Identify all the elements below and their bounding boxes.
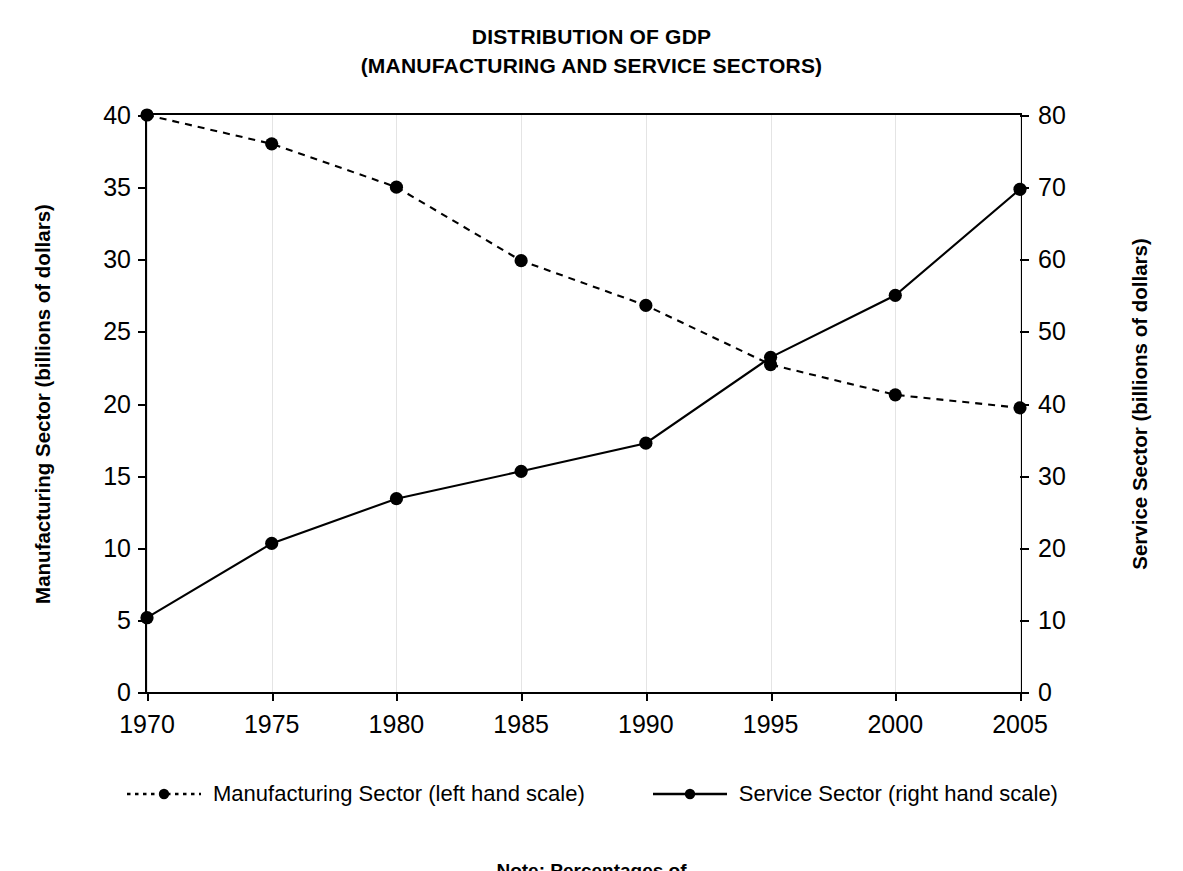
y-axis-right-tick-label: 20: [1038, 536, 1066, 561]
data-point: [265, 137, 278, 150]
x-axis-tick-label: 1985: [493, 712, 549, 737]
y-axis-left-tick-label: 10: [103, 536, 131, 561]
series-layer: [147, 115, 1020, 692]
y-axis-right-tick-label: 60: [1038, 247, 1066, 272]
legend-item-manufacturing[interactable]: Manufacturing Sector (left hand scale): [125, 781, 585, 807]
x-axis-tick-label: 1975: [244, 712, 300, 737]
x-axis-tick: [1020, 692, 1022, 701]
y-axis-left-tick-label: 35: [103, 175, 131, 200]
y-axis-left-tick-label: 25: [103, 319, 131, 344]
data-point: [515, 254, 528, 267]
y-axis-right-tick-label: 0: [1038, 680, 1052, 705]
legend-item-service[interactable]: Service Sector (right hand scale): [651, 781, 1058, 807]
y-axis-right-tick-label: 70: [1038, 175, 1066, 200]
data-point: [764, 351, 777, 364]
data-point: [1013, 183, 1026, 196]
series-line: [147, 189, 1020, 617]
y-axis-left-tick: [138, 187, 147, 189]
y-axis-left-tick-label: 20: [103, 392, 131, 417]
data-point: [1013, 401, 1026, 414]
y-axis-right-tick: [1020, 476, 1029, 478]
y-axis-left-tick: [138, 692, 147, 694]
y-axis-left-tick: [138, 404, 147, 406]
y-axis-right-tick: [1020, 620, 1029, 622]
data-point: [390, 181, 403, 194]
legend-label-service: Service Sector (right hand scale): [739, 781, 1058, 807]
x-axis-tick-label: 1970: [119, 712, 175, 737]
chart-title-line-1: DISTRIBUTION OF GDP: [0, 22, 1183, 51]
x-axis-tick: [646, 692, 648, 701]
y-axis-left-tick-label: 0: [117, 680, 131, 705]
data-point: [390, 492, 403, 505]
x-axis-tick-label: 1990: [618, 712, 674, 737]
data-point: [140, 611, 153, 624]
x-axis-tick-label: 1980: [369, 712, 425, 737]
data-point: [265, 537, 278, 550]
y-axis-right-title: Service Sector (billions of dollars): [1128, 104, 1152, 704]
x-axis-tick-label: 2000: [867, 712, 923, 737]
x-axis-tick: [895, 692, 897, 701]
y-axis-left-title: Manufacturing Sector (billions of dollar…: [31, 104, 55, 704]
y-axis-left-tick-label: 5: [117, 608, 131, 633]
y-axis-left-tick: [138, 259, 147, 261]
x-axis-tick: [396, 692, 398, 701]
y-axis-left-tick: [138, 548, 147, 550]
x-axis-tick-label: 2005: [992, 712, 1048, 737]
x-axis-tick: [771, 692, 773, 701]
y-axis-left-tick-label: 30: [103, 247, 131, 272]
y-axis-right-tick: [1020, 331, 1029, 333]
y-axis-left-tick-label: 40: [103, 103, 131, 128]
y-axis-left-tick: [138, 331, 147, 333]
data-point: [889, 289, 902, 302]
chart-footnote: Note: Percentages of: [0, 860, 1183, 871]
x-axis-tick: [147, 692, 149, 701]
y-axis-right-tick-label: 80: [1038, 103, 1066, 128]
chart-legend: Manufacturing Sector (left hand scale) S…: [0, 781, 1183, 807]
y-axis-left-tick: [138, 476, 147, 478]
y-axis-right-tick-label: 30: [1038, 464, 1066, 489]
chart-figure: DISTRIBUTION OF GDP (MANUFACTURING AND S…: [0, 0, 1183, 871]
data-point: [889, 388, 902, 401]
series-service: [140, 183, 1026, 625]
y-axis-right-tick: [1020, 548, 1029, 550]
y-axis-right-tick: [1020, 115, 1029, 117]
y-axis-right-tick-label: 50: [1038, 319, 1066, 344]
y-axis-right-tick-label: 10: [1038, 608, 1066, 633]
x-axis-tick-label: 1995: [743, 712, 799, 737]
plot-area: 0510152025303540 01020304050607080 19701…: [145, 113, 1022, 694]
data-point: [639, 437, 652, 450]
data-point: [515, 465, 528, 478]
chart-title-line-2: (MANUFACTURING AND SERVICE SECTORS): [0, 51, 1183, 80]
series-line: [147, 115, 1020, 408]
y-axis-left-tick-label: 15: [103, 464, 131, 489]
chart-title: DISTRIBUTION OF GDP (MANUFACTURING AND S…: [0, 22, 1183, 80]
x-axis-tick: [521, 692, 523, 701]
series-manufacturing: [140, 108, 1026, 414]
legend-swatch-dotted-icon: [125, 786, 203, 802]
y-axis-right-tick: [1020, 259, 1029, 261]
y-axis-right-tick-label: 40: [1038, 392, 1066, 417]
data-point: [140, 108, 153, 121]
legend-label-manufacturing: Manufacturing Sector (left hand scale): [213, 781, 585, 807]
legend-swatch-solid-icon: [651, 786, 729, 802]
data-point: [639, 299, 652, 312]
x-axis-tick: [272, 692, 274, 701]
